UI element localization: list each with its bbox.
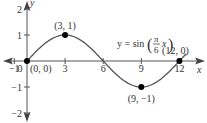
data-point-marker <box>176 58 182 64</box>
data-point-marker <box>62 32 68 38</box>
y-tick-label: 2 <box>17 4 22 15</box>
y-tick-label: −1 <box>11 82 22 93</box>
y-tick-label: 1 <box>17 30 22 41</box>
equation-denominator: 6 <box>154 45 159 55</box>
equation-prefix: y = sin <box>117 38 144 49</box>
x-axis-label: x <box>196 64 202 75</box>
equation-numerator: π <box>154 34 159 44</box>
y-tick-label: −2 <box>11 108 22 119</box>
equation-left-paren: ( <box>147 36 152 54</box>
x-tick-label: 3 <box>63 63 68 74</box>
sine-chart: x y −103691221−1−2 (0, 0)(3, 1)(9, −1)(1… <box>0 0 207 123</box>
data-point-label: (9, −1) <box>128 93 155 105</box>
x-tick-label: 9 <box>139 63 144 74</box>
data-point-label: (0, 0) <box>30 63 52 75</box>
x-tick-label: 0 <box>18 63 23 74</box>
equation-right-paren: ) <box>168 36 173 54</box>
x-tick-label: 6 <box>101 63 106 74</box>
data-point-label: (3, 1) <box>54 20 76 32</box>
equation-variable: x <box>161 38 167 49</box>
data-point-marker <box>138 84 144 90</box>
y-axis-label: y <box>29 0 35 8</box>
key-points: (0, 0)(3, 1)(9, −1)(12, 0) <box>24 20 189 105</box>
